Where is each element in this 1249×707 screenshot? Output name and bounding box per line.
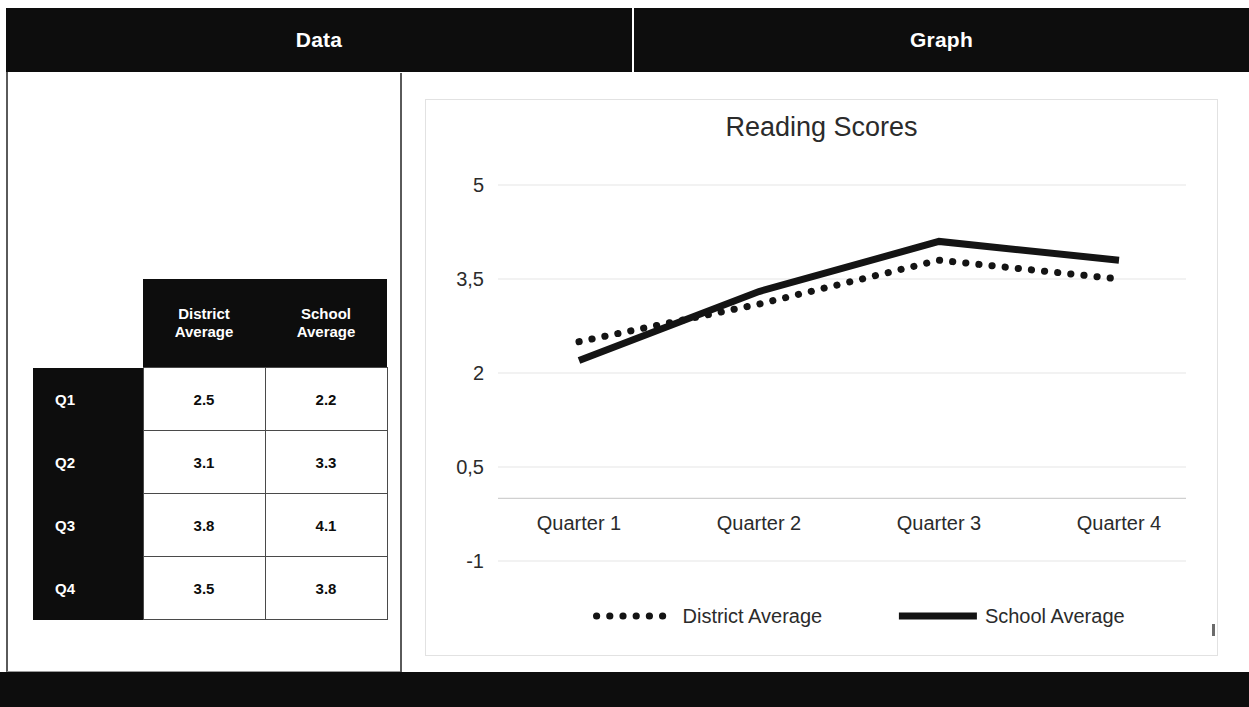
section-header-data-label: Data: [296, 28, 342, 52]
y-tick-label: 2: [473, 362, 484, 384]
data-panel: District Average School Average Q1 2.5 2…: [6, 72, 400, 672]
slide: Data Graph District Average School Avera…: [0, 0, 1249, 707]
column-header-school-line2: Average: [265, 323, 387, 341]
table-row: Q1 2.5 2.2: [33, 368, 387, 431]
slide-footer-band: [0, 672, 1249, 707]
legend-label[interactable]: District Average: [683, 605, 823, 627]
column-header-school-line1: School: [265, 305, 387, 323]
column-header-district-line1: District: [143, 305, 265, 323]
chart-resize-handle[interactable]: [1212, 624, 1215, 636]
row-header-q4: Q4: [33, 557, 143, 620]
x-tick-label: Quarter 1: [537, 512, 621, 534]
table-row: Q3 3.8 4.1: [33, 494, 387, 557]
chart-gridlines: [498, 185, 1186, 561]
cell-q1-district: 2.5: [143, 368, 265, 431]
section-header-graph-label: Graph: [910, 28, 973, 52]
cell-q4-district: 3.5: [143, 557, 265, 620]
row-header-q3: Q3: [33, 494, 143, 557]
x-tick-label: Quarter 2: [717, 512, 801, 534]
chart-series-group: [579, 241, 1119, 360]
y-tick-label: -1: [466, 550, 484, 572]
legend-label[interactable]: School Average: [985, 605, 1125, 627]
x-tick-label: Quarter 4: [1077, 512, 1161, 534]
line-chart: 53,520,5-1 Quarter 1Quarter 2Quarter 3Qu…: [426, 100, 1217, 655]
chart-y-axis-labels: 53,520,5-1: [456, 174, 484, 572]
section-header-graph: Graph: [634, 8, 1249, 72]
table-row: Q2 3.1 3.3: [33, 431, 387, 494]
chart-container[interactable]: Reading Scores 53,520,5-1 Quarter 1Quart…: [425, 99, 1218, 656]
column-header-district: District Average: [143, 279, 265, 368]
scores-table: District Average School Average Q1 2.5 2…: [33, 279, 388, 620]
section-header-data: Data: [6, 8, 632, 72]
cell-q2-district: 3.1: [143, 431, 265, 494]
chart-series-school: [579, 241, 1119, 360]
cell-q3-district: 3.8: [143, 494, 265, 557]
row-header-q1: Q1: [33, 368, 143, 431]
y-tick-label: 0,5: [456, 456, 484, 478]
column-header-school: School Average: [265, 279, 387, 368]
cell-q3-school: 4.1: [265, 494, 387, 557]
graph-panel: Reading Scores 53,520,5-1 Quarter 1Quart…: [402, 72, 1249, 672]
cell-q2-school: 3.3: [265, 431, 387, 494]
x-tick-label: Quarter 3: [897, 512, 981, 534]
table-header-row: District Average School Average: [33, 279, 387, 368]
cell-q1-school: 2.2: [265, 368, 387, 431]
chart-x-axis-labels: Quarter 1Quarter 2Quarter 3Quarter 4: [537, 512, 1161, 534]
column-header-district-line2: Average: [143, 323, 265, 341]
y-tick-label: 5: [473, 174, 484, 196]
y-tick-label: 3,5: [456, 268, 484, 290]
row-header-q2: Q2: [33, 431, 143, 494]
table-corner-cell: [33, 279, 143, 368]
chart-legend: District AverageSchool Average: [597, 605, 1125, 627]
cell-q4-school: 3.8: [265, 557, 387, 620]
table-row: Q4 3.5 3.8: [33, 557, 387, 620]
